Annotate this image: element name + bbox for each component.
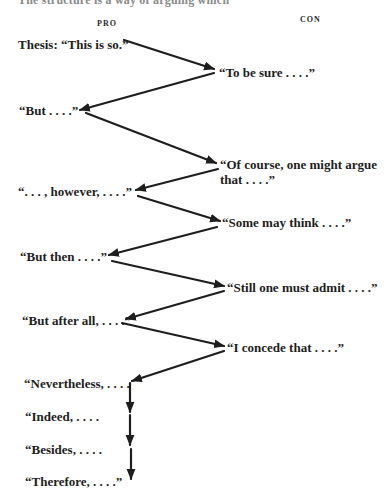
node-some-may-think: “Some may think . . . .” [222,215,351,230]
node-but-then: “But then . . . .” [20,249,107,264]
arrow-however-some-may-think [138,196,220,221]
node-indeed: “Indeed, . . . . [25,409,99,424]
arrow-but-after-all-concede [122,323,224,346]
cut-off-heading: The structure is a way of arguing which [18,0,229,8]
node-i-concede: “I concede that . . . .” [227,340,344,355]
node-but-after-all: “But after all, . . . .” [22,313,131,328]
node-nevertheless: “Nevertheless, . . . . [24,376,130,391]
node-of-course-line1: “Of course, one might argue [220,157,377,172]
arrow-still-but-after-all [126,291,224,319]
node-besides: “Besides, . . . . [25,442,102,457]
arrow-to-be-sure-but [80,73,214,110]
arrow-but-of-course [86,113,216,163]
node-thesis: Thesis: “This is so.” [18,37,129,52]
pro-column-header: PRO [97,19,117,28]
node-of-course: “Of course, one might argue that . . . .… [220,157,377,187]
node-however: “. . . , however, . . . .” [18,184,132,199]
node-to-be-sure: “To be sure . . . .” [219,65,315,80]
node-but: “But . . . .” [19,103,78,118]
arrow-thesis-to-be-sure [124,40,214,69]
con-column-header: CON [300,15,321,24]
arrow-some-may-think-but-then [109,227,217,255]
arrow-but-then-still [112,261,224,286]
arrow-concede-nevertheless [132,351,224,381]
node-still-one-must-admit: “Still one must admit . . . .” [227,280,378,295]
node-of-course-line2: that . . . .” [220,172,377,187]
arrow-of-course-however [136,169,218,190]
node-therefore: “Therefore, . . . .” [25,474,122,489]
